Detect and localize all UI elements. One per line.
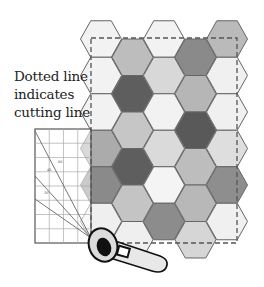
annotation-line-3: cutting line [14,103,90,121]
ruler-angle-label: 60 [58,160,62,164]
annotation-line-2: indicates [14,85,90,103]
cutting-line-annotation: Dotted line indicates cutting line [14,67,90,121]
ruler-angle-label: 30 [44,191,48,195]
quilt-diagram: 604530 [0,0,264,287]
quilting-ruler: 604530 [35,129,91,243]
ruler-angle-label: 45 [47,168,51,172]
cutter-lock-window [117,246,130,258]
annotation-line-1: Dotted line [14,67,90,85]
hexagon-patchwork [81,21,248,258]
